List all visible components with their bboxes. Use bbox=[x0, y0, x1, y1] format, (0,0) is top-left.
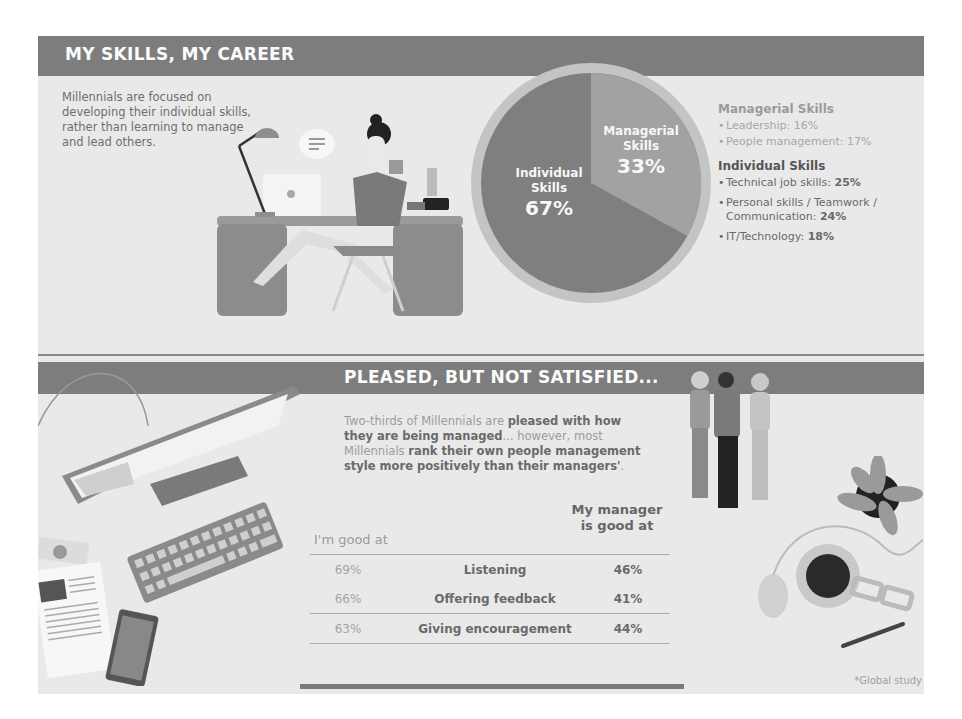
legend-item-personal: Personal skills / Teamwork / Communicati… bbox=[718, 196, 918, 224]
legend-item-people-management: People management: 17% bbox=[718, 135, 918, 149]
woman-at-desk-illustration bbox=[203, 106, 475, 316]
individual-skills-group: Individual Skills Technical job skills: … bbox=[718, 159, 918, 244]
column-header-manager: My manager is good at bbox=[562, 502, 672, 534]
legend-item-it: IT/Technology: 18% bbox=[718, 230, 918, 244]
self-value: 66% bbox=[328, 592, 368, 606]
managerial-skills-heading: Managerial Skills bbox=[718, 102, 918, 116]
section-title: PLEASED, BUT NOT SATISFIED... bbox=[344, 367, 659, 387]
table-row: 63% Giving encouragement 44% bbox=[310, 614, 670, 644]
section-title: MY SKILLS, MY CAREER bbox=[65, 44, 294, 64]
infographic-card: MY SKILLS, MY CAREER Millennials are foc… bbox=[38, 36, 924, 694]
pie-label-individual: Individual Skills 67% bbox=[504, 166, 594, 220]
section-divider bbox=[38, 354, 924, 356]
manager-value: 44% bbox=[598, 622, 658, 636]
footnote: *Global study bbox=[854, 675, 922, 686]
pleased-intro-text: Two-thirds of Millennials are pleased wi… bbox=[344, 414, 644, 474]
self-value: 69% bbox=[328, 563, 368, 577]
pie-label-managerial: Managerial Skills 33% bbox=[598, 124, 684, 178]
legend-item-leadership: Leadership: 16% bbox=[718, 119, 918, 133]
manager-value: 46% bbox=[598, 563, 658, 577]
skills-pie-chart: Individual Skills 67% Managerial Skills … bbox=[470, 62, 712, 304]
managerial-skills-group: Managerial Skills Leadership: 16% People… bbox=[718, 102, 918, 149]
skill-label: Listening bbox=[400, 563, 590, 577]
legend-item-technical: Technical job skills: 25% bbox=[718, 176, 918, 190]
table-body: 69% Listening 46% 66% Offering feedback … bbox=[310, 554, 670, 644]
table-row: 66% Offering feedback 41% bbox=[310, 584, 670, 614]
desk-accessories-illustration bbox=[733, 456, 923, 656]
manager-value: 41% bbox=[598, 592, 658, 606]
self-value: 63% bbox=[328, 622, 368, 636]
desk-topdown-illustration bbox=[38, 366, 308, 686]
column-header-self: I'm good at bbox=[314, 532, 388, 547]
skill-label: Giving encouragement bbox=[400, 622, 590, 636]
skills-breakdown-legend: Managerial Skills Leadership: 16% People… bbox=[718, 102, 918, 250]
individual-skills-heading: Individual Skills bbox=[718, 159, 918, 173]
skill-label: Offering feedback bbox=[400, 592, 590, 606]
table-row: 69% Listening 46% bbox=[310, 555, 670, 584]
table-bottom-bar bbox=[300, 684, 684, 689]
